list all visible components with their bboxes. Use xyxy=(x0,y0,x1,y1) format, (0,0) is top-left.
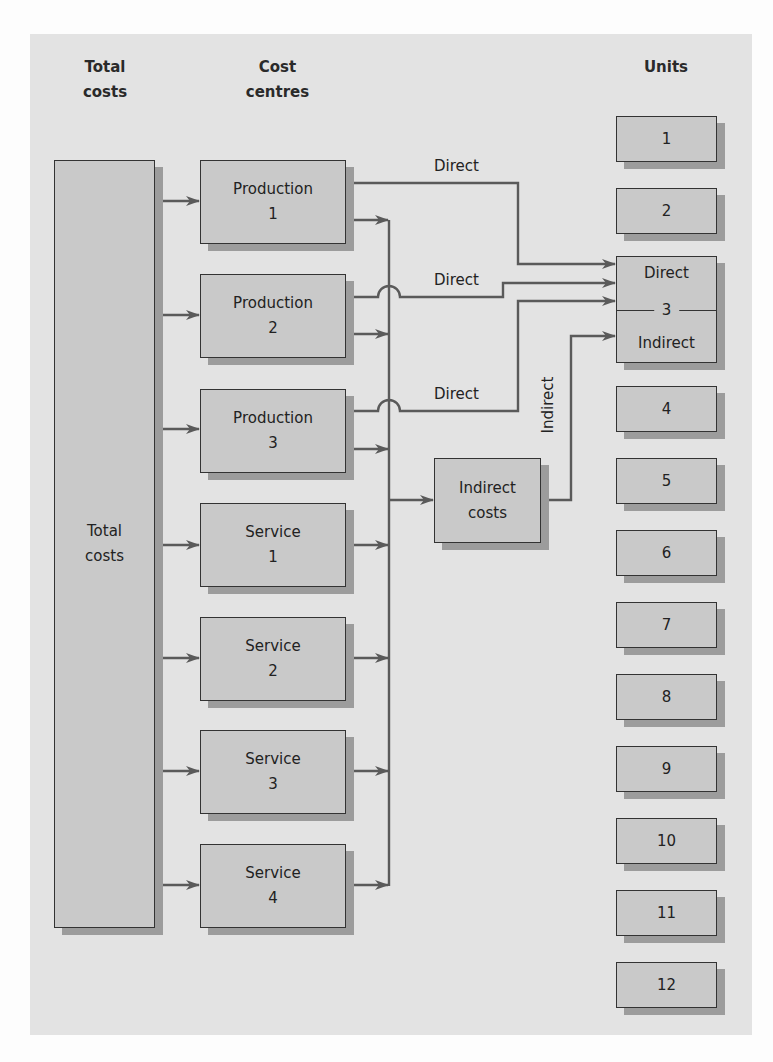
heading-total-costs-line2: costs xyxy=(62,80,148,105)
cost-centre-service-4: Service 4 xyxy=(200,844,346,928)
cost-centre-name: Service xyxy=(245,747,300,772)
unit-number: 9 xyxy=(662,757,672,782)
unit-number: 12 xyxy=(657,973,676,998)
unit-8: 8 xyxy=(616,674,717,720)
cost-centre-name: Service xyxy=(245,861,300,886)
heading-cost-centres-line2: centres xyxy=(225,80,330,105)
cost-centre-production-2: Production 2 xyxy=(200,274,346,358)
unit-2: 2 xyxy=(616,188,717,234)
heading-cost-centres: Cost centres xyxy=(225,55,330,105)
unit-6: 6 xyxy=(616,530,717,576)
heading-units: Units xyxy=(626,55,706,80)
cost-centre-number: 4 xyxy=(268,886,278,911)
indirect-costs-line2: costs xyxy=(468,501,507,526)
total-costs-line2: costs xyxy=(85,544,124,569)
unit-10: 10 xyxy=(616,818,717,864)
cost-centre-number: 1 xyxy=(268,545,278,570)
cost-centre-number: 1 xyxy=(268,202,278,227)
indirect-costs-box: Indirect costs xyxy=(434,458,541,543)
heading-total-costs: Total costs xyxy=(62,55,148,105)
cost-centre-name: Production xyxy=(233,291,313,316)
unit-number: 8 xyxy=(662,685,672,710)
cost-centre-name: Production xyxy=(233,406,313,431)
unit-9: 9 xyxy=(616,746,717,792)
unit-3-indirect-label: Indirect xyxy=(638,331,695,356)
cost-centre-number: 3 xyxy=(268,772,278,797)
cost-centre-name: Service xyxy=(245,634,300,659)
cost-centre-service-1: Service 1 xyxy=(200,503,346,587)
cost-centre-name: Production xyxy=(233,177,313,202)
unit-5: 5 xyxy=(616,458,717,504)
indirect-costs-line1: Indirect xyxy=(459,476,516,501)
unit-number: 2 xyxy=(662,199,672,224)
unit-11: 11 xyxy=(616,890,717,936)
unit-number: 10 xyxy=(657,829,676,854)
unit-1: 1 xyxy=(616,116,717,162)
unit-number: 6 xyxy=(662,541,672,566)
cost-centre-production-1: Production 1 xyxy=(200,160,346,244)
cost-centre-service-3: Service 3 xyxy=(200,730,346,814)
unit-7: 7 xyxy=(616,602,717,648)
unit-4: 4 xyxy=(616,386,717,432)
label-direct-1: Direct xyxy=(434,157,479,175)
cost-centre-number: 2 xyxy=(268,659,278,684)
unit-number: 4 xyxy=(662,397,672,422)
unit-number: 3 xyxy=(654,301,680,319)
unit-number: 5 xyxy=(662,469,672,494)
unit-number: 7 xyxy=(662,613,672,638)
heading-cost-centres-line1: Cost xyxy=(225,55,330,80)
heading-total-costs-line1: Total xyxy=(62,55,148,80)
unit-number: 1 xyxy=(662,127,672,152)
total-costs-line1: Total xyxy=(87,519,122,544)
label-direct-2: Direct xyxy=(434,271,479,289)
cost-centre-service-2: Service 2 xyxy=(200,617,346,701)
unit-12: 12 xyxy=(616,962,717,1008)
unit-3: Direct 3 Indirect xyxy=(616,256,717,363)
unit-number: 11 xyxy=(657,901,676,926)
cost-centre-number: 3 xyxy=(268,431,278,456)
cost-centre-number: 2 xyxy=(268,316,278,341)
unit-3-direct-label: Direct xyxy=(644,261,689,286)
label-indirect-vertical: Indirect xyxy=(539,375,557,435)
cost-centre-production-3: Production 3 xyxy=(200,389,346,473)
label-direct-3: Direct xyxy=(434,385,479,403)
cost-centre-name: Service xyxy=(245,520,300,545)
total-costs-box: Total costs xyxy=(54,160,155,928)
